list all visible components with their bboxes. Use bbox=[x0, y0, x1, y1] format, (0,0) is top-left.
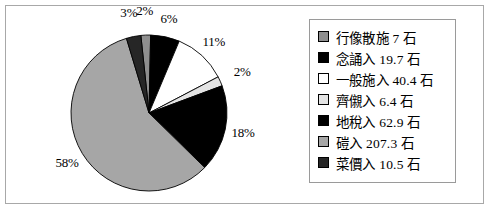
legend-color-swatch bbox=[318, 157, 329, 168]
pie-percent-label: 2% bbox=[136, 3, 153, 19]
legend-color-swatch bbox=[318, 73, 329, 84]
legend-item-label: 地稅入 62.9 石 bbox=[336, 111, 420, 131]
chart-legend: 行像散施 7 石念誦入 19.7 石一般施入 40.4 石齊儭入 6.4 石地稅… bbox=[309, 19, 456, 183]
legend-item: 一般施入 40.4 石 bbox=[318, 68, 455, 89]
legend-item-label: 行像散施 7 石 bbox=[336, 27, 416, 47]
legend-item: 念誦入 19.7 石 bbox=[318, 47, 455, 68]
pie-slices-group bbox=[71, 35, 227, 191]
legend-item: 行像散施 7 石 bbox=[318, 26, 455, 47]
legend-color-swatch bbox=[318, 31, 329, 42]
pie-percent-label: 11% bbox=[202, 34, 225, 50]
pie-percent-label: 18% bbox=[231, 125, 254, 141]
pie-chart-svg bbox=[6, 6, 291, 205]
legend-item-label: 齊儭入 6.4 石 bbox=[336, 90, 413, 110]
pie-percent-label: 6% bbox=[160, 11, 177, 27]
legend-item: 菜價入 10.5 石 bbox=[318, 152, 455, 173]
legend-color-swatch bbox=[318, 115, 329, 126]
legend-item-label: 念誦入 19.7 石 bbox=[336, 48, 420, 68]
pie-percent-label: 2% bbox=[234, 64, 251, 80]
pie-chart-area: 2%6%11%2%18%58%3% bbox=[6, 6, 291, 205]
legend-color-swatch bbox=[318, 94, 329, 105]
pie-percent-label: 3% bbox=[120, 5, 137, 21]
pie-percent-label: 58% bbox=[55, 155, 78, 171]
legend-item: 磑入 207.3 石 bbox=[318, 131, 455, 152]
chart-frame: 2%6%11%2%18%58%3% 行像散施 7 石念誦入 19.7 石一般施入… bbox=[5, 5, 484, 204]
legend-item-label: 菜價入 10.5 石 bbox=[336, 153, 420, 173]
legend-item-label: 一般施入 40.4 石 bbox=[336, 69, 434, 89]
legend-item: 地稅入 62.9 石 bbox=[318, 110, 455, 131]
legend-item-label: 磑入 207.3 石 bbox=[336, 132, 414, 152]
legend-color-swatch bbox=[318, 52, 329, 63]
legend-color-swatch bbox=[318, 136, 329, 147]
legend-item: 齊儭入 6.4 石 bbox=[318, 89, 455, 110]
